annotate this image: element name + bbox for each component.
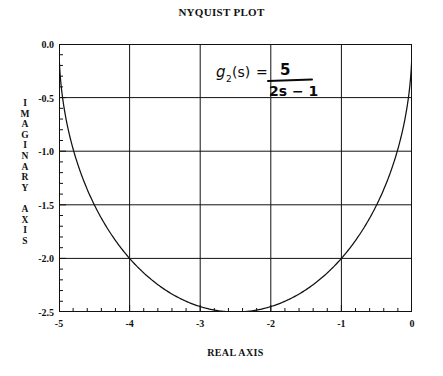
formula-svg: g 2 (s) = 5 2s − 1 <box>214 57 334 103</box>
handwritten-formula-annotation: g 2 (s) = 5 2s − 1 <box>214 57 334 103</box>
chart-title: NYQUIST PLOT <box>0 6 443 18</box>
x-tick-label-5: 0 <box>392 318 432 329</box>
y-axis-tick-labels: 0.0 -0.5 -1.0 -1.5 -2.0 -2.5 <box>0 44 54 312</box>
formula-function-letter: g <box>216 63 226 81</box>
formula-equals: = <box>256 64 268 80</box>
y-tick-label-0: 0.0 <box>6 39 54 50</box>
formula-denominator: 2s − 1 <box>269 83 318 99</box>
formula-argument: (s) <box>232 64 250 80</box>
y-tick-label-5: -2.5 <box>6 307 54 318</box>
y-tick-label-2: -1.0 <box>6 146 54 157</box>
formula-numerator: 5 <box>280 61 290 79</box>
x-axis-tick-labels: -5 -4 -3 -2 -1 0 <box>59 318 412 334</box>
formula-fraction-bar <box>268 80 312 82</box>
nyquist-plot-figure: NYQUIST PLOT I M A G I N A R Y A X I S 0… <box>0 0 443 376</box>
y-tick-label-1: -0.5 <box>6 92 54 103</box>
y-tick-label-4: -2.0 <box>6 253 54 264</box>
x-tick-label-1: -4 <box>110 318 150 329</box>
x-axis-title: REAL AXIS <box>59 347 412 358</box>
x-tick-label-0: -5 <box>39 318 79 329</box>
x-tick-label-3: -2 <box>251 318 291 329</box>
y-tick-label-3: -1.5 <box>6 199 54 210</box>
x-tick-label-4: -1 <box>321 318 361 329</box>
x-tick-label-2: -3 <box>180 318 220 329</box>
formula-subscript: 2 <box>226 74 232 84</box>
